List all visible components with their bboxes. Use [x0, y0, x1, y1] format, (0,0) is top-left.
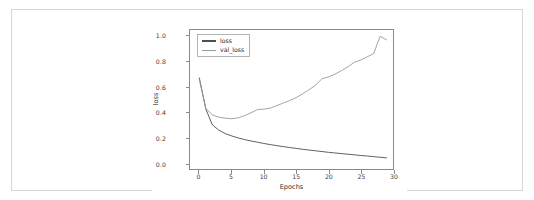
legend-label-loss: loss — [220, 38, 232, 44]
x-tick-mark — [296, 170, 297, 174]
legend-swatch-loss — [202, 40, 216, 41]
x-tick-mark — [329, 170, 330, 174]
y-tick-label: 1.0 — [156, 32, 166, 39]
y-tick-label: 0.4 — [156, 109, 166, 116]
x-tick-mark — [231, 170, 232, 174]
x-tick-label: 5 — [229, 173, 233, 180]
y-tick-label: 0.6 — [156, 83, 166, 90]
x-tick-label: 25 — [357, 173, 365, 180]
legend-item-loss: loss — [202, 38, 244, 44]
x-tick-mark — [198, 170, 199, 174]
x-tick-mark — [394, 170, 395, 174]
x-tick-mark — [361, 170, 362, 174]
x-tick-mark — [264, 170, 265, 174]
chart-figure: loss 0.00.20.40.60.81.0 051015202530 Epo… — [152, 20, 407, 200]
x-tick-label: 15 — [292, 173, 300, 180]
legend-label-val-loss: val_loss — [220, 47, 244, 53]
x-tick-label: 0 — [196, 173, 200, 180]
legend-swatch-val-loss — [202, 50, 216, 51]
x-tick-label: 20 — [325, 173, 333, 180]
chart-legend: loss val_loss — [197, 34, 250, 57]
y-axis-label: loss — [152, 93, 160, 106]
x-axis-label: Epochs — [189, 183, 394, 191]
x-tick-label: 30 — [390, 173, 398, 180]
y-tick-label: 0.0 — [156, 160, 166, 167]
y-tick-label: 0.8 — [156, 58, 166, 65]
y-tick-label: 0.2 — [156, 134, 166, 141]
page-frame: loss 0.00.20.40.60.81.0 051015202530 Epo… — [11, 9, 523, 191]
legend-item-val-loss: val_loss — [202, 47, 244, 53]
x-tick-label: 10 — [260, 173, 268, 180]
